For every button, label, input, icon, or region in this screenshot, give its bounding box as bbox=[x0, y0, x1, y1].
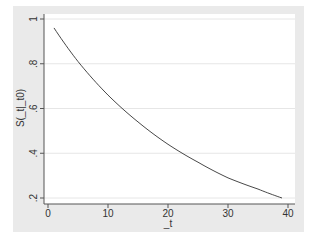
x-tick-label: 0 bbox=[45, 208, 51, 219]
y-tick-label: .6 bbox=[28, 104, 39, 113]
y-tick-label: 1 bbox=[28, 16, 39, 22]
x-tick-label: 30 bbox=[222, 208, 234, 219]
x-tick-label: 40 bbox=[282, 208, 294, 219]
x-tick-label: 10 bbox=[102, 208, 114, 219]
y-axis-title: S(_t|_t0) bbox=[15, 89, 26, 127]
survival-chart: .2.4.6.81010203040 _t S(_t|_t0) bbox=[0, 0, 315, 249]
y-tick-label: .2 bbox=[28, 193, 39, 202]
y-tick-label: .4 bbox=[28, 149, 39, 158]
y-tick-label: .8 bbox=[28, 59, 39, 68]
x-axis-title: _t bbox=[163, 218, 173, 229]
